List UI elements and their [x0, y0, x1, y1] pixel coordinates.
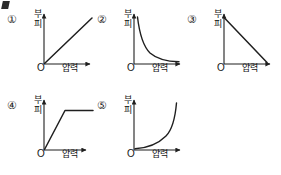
option-2-axes-svg [110, 6, 184, 88]
option-3-linear-decreasing[interactable]: ③ 부 피 O 압력 [184, 6, 274, 88]
option-1-axes-svg [20, 6, 94, 88]
option-5-exponential-increasing[interactable]: ⑤ 부 피 O 압력 [94, 92, 184, 174]
option-4-plot: 부 피 O 압력 [20, 92, 94, 174]
option-3-xlabel: 압력 [242, 63, 258, 73]
option-1-number: ① [5, 12, 19, 26]
option-5-axes-svg [110, 92, 184, 174]
question-figure-sheet: ① 부 피 O 압력 ② 부 [0, 0, 281, 175]
option-5-origin-label: O [127, 149, 135, 159]
option-2-number: ② [95, 12, 109, 26]
option-2-xlabel: 압력 [152, 63, 168, 73]
option-1-xlabel: 압력 [62, 63, 78, 73]
option-5-number: ⑤ [95, 98, 109, 112]
option-1-linear-increasing[interactable]: ① 부 피 O 압력 [4, 6, 94, 88]
option-5-plot: 부 피 O 압력 [110, 92, 184, 174]
option-2-inverse-decay[interactable]: ② 부 피 O 압력 [94, 6, 184, 88]
option-4-rise-then-plateau[interactable]: ④ 부 피 O 압력 [4, 92, 94, 174]
option-5-xlabel: 압력 [152, 149, 168, 159]
option-3-plot: 부 피 O 압력 [200, 6, 274, 88]
option-4-number: ④ [5, 98, 19, 112]
option-2-origin-label: O [127, 63, 135, 73]
option-3-origin-label: O [217, 63, 225, 73]
option-3-number: ③ [185, 12, 199, 26]
option-3-axes-svg [200, 6, 274, 88]
option-1-origin-label: O [37, 63, 45, 73]
option-4-xlabel: 압력 [62, 149, 78, 159]
option-1-plot: 부 피 O 압력 [20, 6, 94, 88]
option-4-axes-svg [20, 92, 94, 174]
option-2-plot: 부 피 O 압력 [110, 6, 184, 88]
option-4-origin-label: O [37, 149, 45, 159]
